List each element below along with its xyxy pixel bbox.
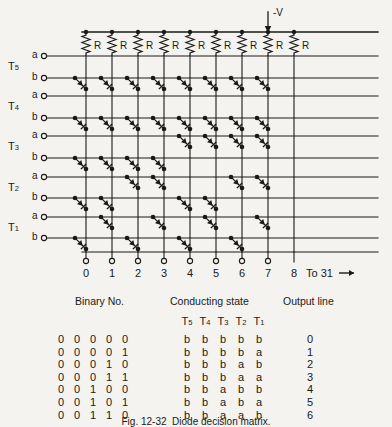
- table-row-4-state-T4: b: [202, 384, 208, 395]
- table-row-3-binary-bit-1: 0: [74, 372, 80, 383]
- diode-col5-T5b-cathode-node: [214, 87, 219, 92]
- table-state-column-header-T4: T4: [200, 316, 211, 327]
- diode-col6-T4b-cathode-node: [240, 127, 245, 132]
- table-row-4-state-T2: b: [238, 384, 244, 395]
- output-terminal-5: [213, 258, 218, 263]
- stage-label-T3: T3: [8, 141, 19, 152]
- diode-col5-T4b-cathode-node: [214, 127, 219, 132]
- stage-label-T1-base: T: [8, 221, 15, 233]
- table-row-2-binary-bit-2: 0: [90, 359, 96, 370]
- resistor-0: [82, 32, 90, 56]
- supply-voltage-label: -V: [273, 8, 283, 18]
- diode-col2-T5b-cathode-node: [136, 87, 141, 92]
- table-state-column-header-T1: T1: [254, 316, 265, 327]
- diode-col6-T1b-cathode-node: [240, 247, 245, 252]
- resistor-label-1: R: [120, 41, 127, 51]
- table-row-2-state-T1: b: [256, 359, 262, 370]
- diode-col3-T4b-cathode-node: [162, 127, 167, 132]
- resistor-label-0: R: [94, 41, 101, 51]
- table-row-0-state-T3: b: [220, 334, 226, 345]
- stage-label-T4: T4: [8, 101, 19, 112]
- table-row-1-state-T2: b: [238, 347, 244, 358]
- input-label-a-T4: a: [32, 90, 38, 100]
- table-row-3-state-T4: b: [202, 372, 208, 383]
- table-state-column-header-T1-base: T: [254, 315, 261, 327]
- table-row-1-binary-bit-4: 1: [122, 347, 128, 358]
- stage-label-T2: T2: [8, 182, 19, 193]
- table-row-2-state-T2: a: [238, 359, 244, 370]
- diode-col5-T1a-cathode-node: [214, 226, 219, 231]
- table-row-2-binary-bit-0: 0: [58, 359, 64, 370]
- table-row-4-binary-bit-0: 0: [58, 384, 64, 395]
- input-label-a-T3: a: [32, 130, 38, 140]
- diode-col2-T2a-cathode-node: [136, 186, 141, 191]
- diode-col3-T2a-cathode-node: [162, 186, 167, 191]
- resistor-label-2: R: [146, 41, 153, 51]
- diode-col2-T4b-cathode-node: [136, 127, 141, 132]
- table-row-6-binary-bit-1: 0: [74, 410, 80, 421]
- diode-col2-T3b-cathode-node: [136, 167, 141, 172]
- table-row-5-state-T5: b: [184, 397, 190, 408]
- resistor-top-node-1: [110, 30, 114, 34]
- input-label-b-T2: b: [32, 192, 38, 202]
- diode-col7-T3a-cathode-node: [266, 145, 271, 150]
- output-terminal-6: [239, 258, 244, 263]
- table-row-5-binary-bit-4: 1: [122, 397, 128, 408]
- diode-col7-T1a-cathode-node: [266, 226, 271, 231]
- input-terminal-b-stage-4: [41, 115, 46, 120]
- stage-label-T4-subscript: 4: [15, 103, 19, 112]
- diode-col0-T5b-cathode-node: [84, 87, 89, 92]
- resistor-3: [160, 32, 168, 56]
- table-state-column-header-T5-base: T: [182, 315, 189, 327]
- resistor-8: [290, 32, 298, 56]
- output-terminal-0: [83, 258, 88, 263]
- table-row-3-state-T2: a: [238, 372, 244, 383]
- diode-col3-T5b-cathode-node: [162, 87, 167, 92]
- input-terminal-a-stage-1: [41, 214, 46, 219]
- table-row-3-output-line: 3: [307, 372, 313, 383]
- output-terminal-7: [265, 258, 270, 263]
- output-column-number-1: 1: [109, 268, 115, 279]
- diode-col5-T2b-cathode-node: [214, 207, 219, 212]
- table-row-4-state-T3: a: [220, 384, 226, 395]
- table-row-1-binary-bit-1: 0: [74, 347, 80, 358]
- input-terminal-a-stage-4: [41, 93, 46, 98]
- table-row-5-state-T4: b: [202, 397, 208, 408]
- diode-col7-T2a-cathode-node: [266, 186, 271, 191]
- table-row-4-binary-bit-2: 1: [90, 384, 96, 395]
- table-row-0-state-T2: b: [238, 334, 244, 345]
- stage-label-T4-base: T: [8, 100, 15, 112]
- diode-col4-T1b-cathode-node: [188, 247, 193, 252]
- table-state-column-header-T4-subscript: 4: [206, 318, 210, 327]
- diode-col4-T4b-cathode-node: [188, 127, 193, 132]
- table-header-conducting-state: Conducting state: [170, 296, 249, 307]
- stage-label-T2-base: T: [8, 181, 15, 193]
- output-column-number-3: 3: [161, 268, 167, 279]
- input-terminal-b-stage-3: [41, 155, 46, 160]
- table-row-2-binary-bit-4: 0: [122, 359, 128, 370]
- resistor-1: [108, 32, 116, 56]
- resistor-top-node-5: [214, 30, 218, 34]
- table-row-3-binary-bit-3: 1: [106, 372, 112, 383]
- table-row-5-output-line: 5: [307, 397, 313, 408]
- table-row-0-binary-bit-3: 0: [106, 334, 112, 345]
- table-row-2-binary-bit-3: 1: [106, 359, 112, 370]
- table-row-4-binary-bit-3: 0: [106, 384, 112, 395]
- resistor-top-node-0: [84, 30, 88, 34]
- table-row-1-state-T1: a: [256, 347, 262, 358]
- diode-col1-T3b-cathode-node: [110, 167, 115, 172]
- table-state-column-header-T1-subscript: 1: [260, 318, 264, 327]
- resistor-7: [264, 32, 272, 56]
- table-row-3-binary-bit-0: 0: [58, 372, 64, 383]
- resistor-label-8: R: [302, 41, 309, 51]
- table-state-column-header-T3-base: T: [218, 315, 225, 327]
- output-terminal-3: [161, 258, 166, 263]
- output-column-number-0: 0: [83, 268, 89, 279]
- diode-col5-T3a-cathode-node: [214, 145, 219, 150]
- resistor-label-6: R: [250, 41, 257, 51]
- input-label-a-T5: a: [32, 50, 38, 60]
- table-row-4-binary-bit-4: 0: [122, 384, 128, 395]
- table-row-3-state-T1: a: [256, 372, 262, 383]
- continuation-label: To 31: [306, 268, 333, 279]
